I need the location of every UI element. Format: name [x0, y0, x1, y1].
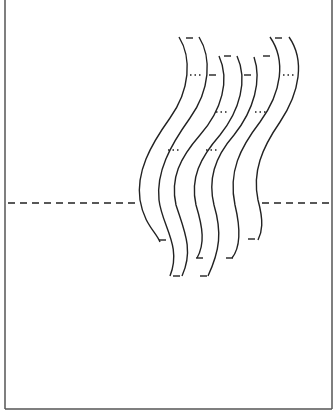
strip-fold-marks [168, 75, 296, 150]
page-border [5, 0, 332, 409]
strip-4-left-edge [256, 37, 298, 240]
strip-1-left-edge [139, 37, 187, 242]
strip-3-left-edge [208, 57, 257, 276]
wavy-strips-diagram [0, 0, 335, 414]
template-sheet [0, 0, 335, 414]
strip-end-marks [159, 38, 282, 276]
strip-3-right-edge [232, 37, 280, 258]
